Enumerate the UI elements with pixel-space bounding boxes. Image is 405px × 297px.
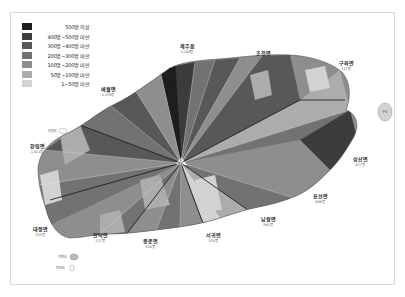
- svg-text:비양도: 비양도: [48, 128, 57, 133]
- town-label: 서귀면: [206, 232, 221, 239]
- legend-swatch: [22, 33, 32, 40]
- legend-swatch: [22, 52, 32, 59]
- svg-text:1,570명: 1,570명: [102, 92, 115, 97]
- svg-text:477명: 477명: [355, 162, 364, 167]
- town-label: 조천면: [256, 50, 271, 57]
- town-label: 중문면: [143, 238, 158, 245]
- town-label: 대정면: [33, 226, 48, 233]
- town-label: 안덕면: [93, 232, 108, 239]
- island-marado[interactable]: [70, 265, 74, 271]
- legend-swatch: [22, 61, 32, 68]
- legend-swatch: [22, 71, 32, 78]
- svg-text:우도: 우도: [382, 110, 388, 114]
- town-label: 애월면: [101, 86, 116, 93]
- town-label: 표선면: [313, 193, 328, 200]
- svg-text:518명: 518명: [145, 244, 154, 249]
- svg-text:606명: 606명: [315, 199, 324, 204]
- legend-item: 300명~400명 미만: [22, 41, 90, 50]
- legend-item: 1~50명 미만: [22, 79, 90, 88]
- svg-text:227명: 227명: [95, 238, 104, 243]
- legend-item: 500명 이상: [22, 22, 90, 31]
- town-label: 구좌면: [339, 60, 354, 67]
- legend-item: 50명~100명 미만: [22, 70, 90, 79]
- legend-swatch: [22, 80, 32, 87]
- legend-swatch: [22, 23, 32, 30]
- island-biyangdo[interactable]: [59, 129, 67, 134]
- legend: 500명 이상 400명~500명 미만 300명~400명 미만 200명~3…: [22, 22, 90, 89]
- town-label: 제주읍: [180, 43, 195, 50]
- legend-item: 400명~500명 미만: [22, 32, 90, 41]
- svg-text:1,860명: 1,860명: [257, 56, 270, 61]
- legend-item: 100명~200명 미만: [22, 60, 90, 69]
- svg-text:317명: 317명: [341, 66, 350, 71]
- svg-text:가파도: 가파도: [58, 254, 67, 259]
- svg-text:563명: 563명: [263, 222, 272, 227]
- svg-text:1,011명: 1,011명: [31, 149, 44, 154]
- svg-text:333명: 333명: [35, 232, 44, 237]
- town-label: 성산면: [353, 156, 368, 163]
- island-gapado[interactable]: [70, 254, 78, 260]
- town-label: 한림면: [30, 143, 45, 150]
- town-label: 남원면: [261, 216, 276, 223]
- svg-text:374명: 374명: [208, 238, 217, 243]
- legend-item: 200명~300명 미만: [22, 51, 90, 60]
- svg-text:1,240명: 1,240명: [181, 49, 194, 54]
- legend-swatch: [22, 42, 32, 49]
- svg-text:마라도: 마라도: [56, 265, 65, 270]
